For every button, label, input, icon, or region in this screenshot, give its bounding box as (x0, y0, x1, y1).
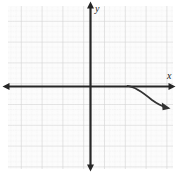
graph-canvas: y x (0, 0, 178, 173)
y-axis-label: y (94, 3, 100, 14)
x-axis-left-arrowhead (3, 83, 10, 90)
coordinate-plane-figure: y x (0, 0, 178, 173)
x-axis-label: x (166, 70, 172, 81)
y-axis-top-arrowhead (87, 2, 94, 9)
